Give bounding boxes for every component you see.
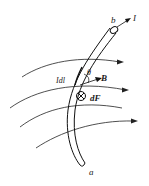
- field-line-arrowheads: [117, 60, 138, 124]
- label-force-df: dF: [90, 93, 101, 103]
- field-line-2: [10, 86, 126, 108]
- label-current-element: Idl: [55, 76, 66, 85]
- field-line-4: [36, 121, 134, 148]
- label-field-b: B: [100, 73, 107, 83]
- field-lines: [10, 59, 134, 148]
- field-line-3: [20, 105, 122, 127]
- label-current: I: [132, 13, 137, 23]
- current-element-segment: [75, 67, 82, 85]
- label-end-b: b: [111, 15, 116, 25]
- current-arrowhead: [125, 18, 131, 23]
- label-theta: θ: [87, 68, 91, 77]
- arrowhead-2: [122, 88, 129, 93]
- wire-force-diagram: b I Idl θ B dF a: [0, 0, 149, 186]
- arrowhead-4: [131, 119, 138, 124]
- arrowhead-1: [117, 60, 124, 65]
- label-end-a: a: [89, 167, 94, 177]
- wire-bottom-cap: [80, 163, 85, 166]
